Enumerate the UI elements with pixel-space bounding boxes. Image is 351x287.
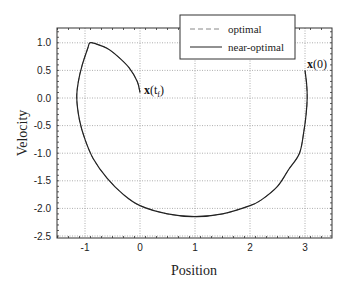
y-tick-label: -1.0 [34, 148, 52, 159]
series-near-optimal [77, 43, 307, 217]
x-tick-label: 3 [302, 242, 308, 253]
series-lines [77, 43, 307, 217]
y-tick-label: -2.0 [34, 203, 52, 214]
legend-label-optimal: optimal [228, 23, 262, 35]
x-tick-label: 2 [247, 242, 253, 253]
annotation-end: x(tf) [144, 83, 164, 99]
y-tick-label: -2.5 [34, 231, 52, 242]
annotation-start: x(0) [307, 57, 327, 71]
x-tick-labels: -10123 [81, 242, 309, 253]
y-tick-label: 0.5 [37, 65, 51, 76]
x-tick-label: -1 [81, 242, 90, 253]
y-tick-label: 0.0 [37, 93, 51, 104]
y-tick-label: -1.5 [34, 175, 52, 186]
legend: optimal near-optimal [180, 15, 295, 59]
x-axis-title: Position [171, 263, 217, 278]
phase-plot: -10123 1.00.50.0-0.5-1.0-1.5-2.0-2.5 Pos… [0, 0, 351, 287]
y-tick-labels: 1.00.50.0-0.5-1.0-1.5-2.0-2.5 [34, 37, 52, 241]
y-axis-title: Velocity [15, 110, 30, 157]
x-tick-label: 1 [192, 242, 198, 253]
svg-text:x(tf): x(tf) [144, 83, 164, 99]
y-tick-label: 1.0 [37, 37, 51, 48]
legend-label-near-optimal: near-optimal [228, 41, 284, 53]
svg-text:x(0): x(0) [307, 57, 327, 71]
y-tick-label: -0.5 [34, 120, 52, 131]
x-tick-label: 0 [137, 242, 143, 253]
